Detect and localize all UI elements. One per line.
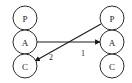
right-column: P A C bbox=[100, 6, 124, 78]
node-right-c-circle[interactable] bbox=[100, 54, 124, 78]
node-left-p[interactable]: P bbox=[13, 6, 37, 30]
node-right-p-circle[interactable] bbox=[100, 6, 124, 30]
edge-1-label: 1 bbox=[81, 49, 85, 58]
node-left-c-circle[interactable] bbox=[13, 54, 37, 78]
node-right-p[interactable]: P bbox=[100, 6, 124, 30]
node-right-a[interactable]: A bbox=[100, 30, 124, 54]
node-left-a-circle[interactable] bbox=[13, 30, 37, 54]
node-right-c[interactable]: C bbox=[100, 54, 124, 78]
node-right-a-circle[interactable] bbox=[100, 30, 124, 54]
node-left-p-circle[interactable] bbox=[13, 6, 37, 30]
node-left-c[interactable]: C bbox=[13, 54, 37, 78]
graph-svg: P A C P A C bbox=[0, 0, 132, 83]
node-left-a[interactable]: A bbox=[13, 30, 37, 54]
diagram-canvas: P A C P A C bbox=[0, 0, 132, 83]
left-column: P A C bbox=[13, 6, 37, 78]
edge-2-label: 2 bbox=[49, 53, 53, 62]
edges-layer bbox=[35, 24, 101, 61]
